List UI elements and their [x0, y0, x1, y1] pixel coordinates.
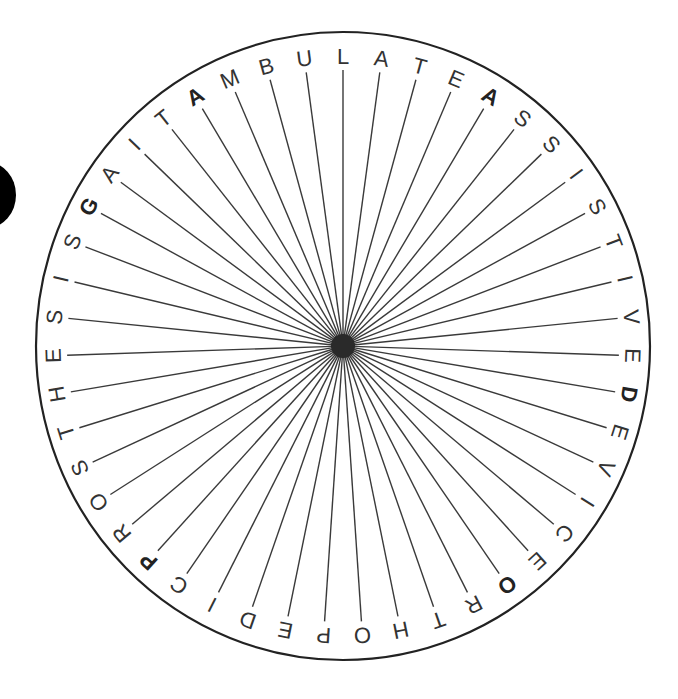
spoke-line [347, 92, 451, 337]
wheel-letter: S [583, 194, 612, 219]
wheel-letter: E [445, 65, 468, 94]
wheel-letter: V [591, 456, 620, 480]
spoke-line [352, 350, 593, 462]
wheel-letter: C [550, 519, 579, 547]
wheel-letter: R [461, 590, 486, 619]
wheel-letter: O [493, 570, 521, 600]
spoke-line [68, 318, 333, 345]
wheel-letter: E [620, 348, 645, 364]
wheel-letter: D [615, 384, 642, 404]
wheel-letter: H [43, 384, 70, 404]
wheel-letter: O [83, 488, 113, 516]
wheel-letter: D [236, 606, 259, 635]
wheel-letter: H [390, 616, 411, 644]
spoke-line [93, 350, 334, 462]
spoke-line [121, 182, 335, 340]
wheel-letter: E [276, 616, 295, 643]
wheel-letter: S [58, 230, 87, 253]
wheel-letter: A [182, 82, 209, 112]
wheel-letter: B [256, 52, 277, 80]
spoke-line [346, 355, 433, 606]
wheel-letter: T [600, 231, 628, 253]
wheel-letter: E [524, 547, 552, 575]
spoke-line [101, 213, 334, 341]
wheel-letter: O [353, 622, 372, 648]
wheel-letter: A [95, 160, 124, 187]
wheel-letter: C [165, 570, 192, 600]
wheel-letter: T [428, 606, 449, 634]
wheel-letter: T [410, 52, 430, 80]
wheel-letter: T [150, 104, 176, 132]
spoke-line [306, 72, 341, 336]
wheel-letter: E [40, 348, 65, 364]
wheel-letter: V [618, 308, 644, 325]
spoke-line [344, 72, 379, 336]
spoke-line [158, 353, 336, 550]
spoke-line [351, 182, 565, 340]
spoke-line [75, 282, 334, 344]
spoke-line [352, 213, 585, 341]
spoke-line [353, 282, 612, 344]
spoke-line [132, 352, 335, 524]
center-dot [331, 334, 355, 358]
spoke-line [350, 353, 528, 550]
wheel-letter: L [337, 44, 349, 69]
wheel-letter: T [52, 422, 80, 442]
wheel-letter: U [295, 45, 314, 72]
wheel-letter: R [107, 519, 136, 547]
wheel-letter: I [565, 164, 589, 184]
wheel-letter: A [373, 45, 391, 72]
spoke-line [348, 355, 468, 592]
spoke-line [85, 247, 333, 343]
wheel-letter: S [509, 104, 536, 133]
wheel-letter: S [66, 456, 95, 480]
wheel-letter: I [48, 273, 74, 285]
spoke-line [145, 154, 336, 339]
spoke-line [352, 247, 600, 343]
spoke-line [110, 351, 334, 494]
spoke-line [235, 92, 339, 337]
wheel-letter: I [123, 134, 145, 156]
wheel-letter: A [478, 82, 505, 112]
word-wheel: LATEASSISTIVEDEVICEORTHOPEDICPROSTHESISG… [0, 0, 678, 699]
spoke-line [351, 352, 554, 524]
spoke-line [348, 109, 484, 338]
wheel-letter: E [606, 421, 634, 442]
wheel-letter: P [135, 547, 163, 575]
spoke-line [351, 351, 575, 494]
wheel-letter: G [74, 193, 104, 220]
wheel-letter: I [612, 273, 638, 285]
spoke-line [252, 355, 339, 606]
wheel-letter: S [41, 308, 67, 325]
wheel-letter: P [315, 622, 331, 648]
wheel-letter: I [204, 592, 221, 617]
spoke-line [353, 318, 618, 345]
wheel-letter: I [575, 493, 599, 512]
spoke-line [202, 109, 338, 338]
spoke-line [219, 355, 339, 592]
wheel-letter: M [216, 64, 243, 94]
wheel-letter: S [537, 130, 565, 158]
spoke-line [350, 154, 541, 339]
